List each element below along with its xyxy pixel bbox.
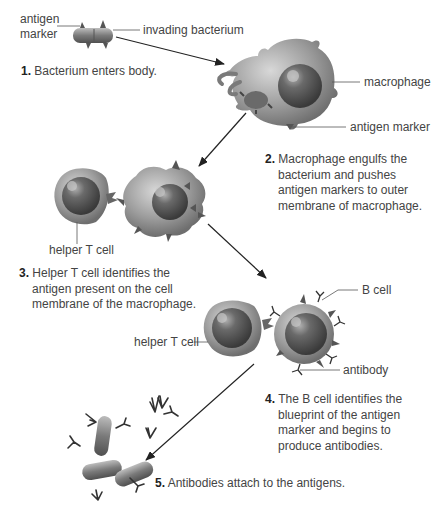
macrophage-label: macrophage xyxy=(364,75,431,90)
antigen-marker-label: antigen marker xyxy=(20,12,59,42)
macrophage-with-antigens-icon xyxy=(116,160,206,242)
step-1: 1. Bacterium enters body. xyxy=(21,64,221,80)
invading-bacterium-label: invading bacterium xyxy=(143,23,244,38)
step-1-text: Bacterium enters body. xyxy=(34,64,157,78)
step-1-number: 1. xyxy=(21,64,31,78)
antigen-marker-label-2: antigen marker xyxy=(350,120,430,135)
step-2: 2. Macrophage engulfs the bacterium and … xyxy=(265,152,425,214)
antigen-marker-label-line2: marker xyxy=(20,27,59,42)
b-cell-label: B cell xyxy=(362,283,391,298)
macrophage-icon xyxy=(219,39,337,130)
b-cell-icon xyxy=(270,291,345,375)
step-5: 5. Antibodies attach to the antigens. xyxy=(155,476,415,492)
step-5-text: Antibodies attach to the antigens. xyxy=(168,476,345,490)
step-2-text: Macrophage engulfs the bacterium and pus… xyxy=(278,152,422,213)
step-2-number: 2. xyxy=(265,152,275,166)
step-3-text: Helper T cell identifies the antigen pre… xyxy=(32,266,196,311)
step-3-number: 3. xyxy=(19,266,29,280)
antigen-marker-label-line1: antigen xyxy=(20,12,59,27)
step-5-number: 5. xyxy=(155,476,165,490)
step-4-number: 4. xyxy=(265,392,275,406)
invading-bacterium-icon xyxy=(73,20,113,49)
helper-t-cell-icon xyxy=(54,168,118,224)
step-3: 3. Helper T cell identifies the antigen … xyxy=(19,266,204,313)
step-4-text: The B cell identifies the blueprint of t… xyxy=(278,392,402,453)
helper-t-cell-label-2: helper T cell xyxy=(134,335,199,350)
antibody-label: antibody xyxy=(343,363,388,378)
helper-t-cell-2-icon xyxy=(204,301,274,357)
step-4: 4. The B cell identifies the blueprint o… xyxy=(265,392,405,454)
helper-t-cell-label: helper T cell xyxy=(49,243,114,258)
